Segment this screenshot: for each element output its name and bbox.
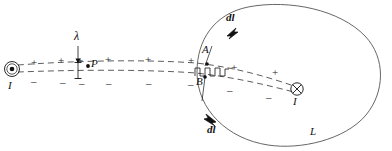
current-right-label: I	[293, 96, 297, 107]
charge-minus-sign: –	[227, 85, 233, 96]
charge-minus-sign: –	[31, 76, 37, 87]
physics-figure: λ P A B I I dl dl L ++++++++––––––––	[0, 0, 392, 151]
current-out-of-page-icon	[5, 62, 20, 77]
dl-lower-label: dl	[207, 124, 216, 135]
charge-minus-sign: –	[146, 78, 152, 89]
point-p-dot	[86, 64, 90, 68]
charge-plus-sign: +	[105, 54, 111, 65]
loop-name-label: L	[310, 126, 316, 137]
loop-curve-L	[197, 4, 381, 146]
point-b-label: B	[196, 76, 203, 87]
point-p-label: P	[91, 58, 98, 69]
charge-plus-sign: +	[231, 62, 237, 73]
charge-plus-sign: +	[31, 57, 37, 68]
charge-minus-sign: –	[106, 78, 112, 89]
charge-minus-sign: –	[266, 92, 272, 103]
current-into-page-icon	[291, 83, 303, 95]
charge-minus-sign: –	[60, 77, 66, 88]
charge-plus-sign: +	[145, 54, 151, 65]
charge-plus-sign: +	[58, 55, 64, 66]
dl-upper-arrow-icon	[227, 28, 238, 39]
point-a-label: A	[202, 44, 209, 55]
current-left-label: I	[8, 80, 12, 91]
charge-plus-sign: +	[272, 67, 278, 78]
charge-plus-sign: +	[77, 55, 83, 66]
dl-upper-label: dl	[226, 12, 235, 23]
lambda-label: λ	[74, 30, 79, 42]
charge-minus-sign: –	[79, 78, 85, 89]
charge-plus-sign: +	[188, 55, 194, 66]
charge-minus-sign: –	[188, 79, 194, 90]
